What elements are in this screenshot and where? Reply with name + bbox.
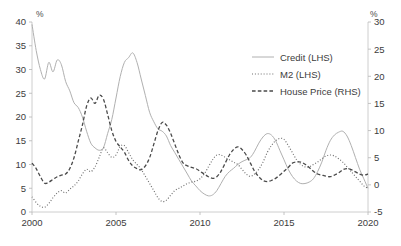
y-tick-label-right: 20 <box>374 71 385 82</box>
left-axis-unit-label: % <box>36 9 44 19</box>
x-tick-label: 2010 <box>189 217 210 228</box>
y-tick-label-right: 10 <box>374 125 385 136</box>
x-tick-label: 2020 <box>357 217 378 228</box>
x-tick-label: 2015 <box>273 217 294 228</box>
chart-container: 0510152025303540-50510152025302000200520… <box>0 0 401 246</box>
y-tick-label-left: 10 <box>15 159 26 170</box>
y-tick-label-right: 5 <box>374 152 379 163</box>
right-axis-unit-label: % <box>370 9 378 19</box>
x-tick-label: 2005 <box>105 217 126 228</box>
y-tick-label-right: -5 <box>374 206 382 217</box>
series-line-2 <box>32 95 368 183</box>
chart-legend: Credit (LHS)M2 (LHS)House Price (RHS) <box>252 52 361 97</box>
series-line-0 <box>32 24 368 196</box>
y-tick-label-left: 5 <box>21 183 26 194</box>
y-tick-label-right: 0 <box>374 179 379 190</box>
y-tick-label-left: 25 <box>15 88 26 99</box>
legend-label-1: M2 (LHS) <box>280 69 321 80</box>
y-tick-label-left: 40 <box>15 16 26 27</box>
y-tick-label-left: 0 <box>21 206 26 217</box>
y-tick-label-left: 20 <box>15 111 26 122</box>
tick-labels: 0510152025303540-50510152025302000200520… <box>15 16 384 228</box>
y-tick-label-left: 15 <box>15 135 26 146</box>
x-tick-label: 2000 <box>21 217 42 228</box>
line-chart: 0510152025303540-50510152025302000200520… <box>0 0 401 246</box>
legend-label-0: Credit (LHS) <box>280 52 333 63</box>
series-line-1 <box>32 138 368 207</box>
y-tick-label-left: 30 <box>15 64 26 75</box>
y-tick-label-left: 35 <box>15 40 26 51</box>
y-tick-label-right: 25 <box>374 44 385 55</box>
legend-label-2: House Price (RHS) <box>280 86 361 97</box>
y-tick-label-right: 15 <box>374 98 385 109</box>
